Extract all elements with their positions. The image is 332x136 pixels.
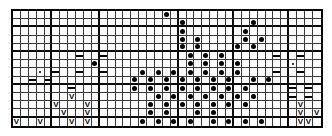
chart-cell-filled-dot[interactable] — [163, 101, 171, 109]
chart-cell-empty[interactable] — [116, 19, 124, 27]
chart-cell-empty[interactable] — [250, 60, 258, 68]
chart-cell-empty[interactable] — [29, 44, 37, 52]
chart-cell-empty[interactable] — [92, 77, 100, 85]
chart-cell-filled-dot[interactable] — [226, 101, 234, 109]
chart-cell-empty[interactable] — [258, 27, 266, 35]
chart-cell-empty[interactable] — [60, 19, 68, 27]
chart-cell-empty[interactable] — [29, 85, 37, 93]
chart-cell-empty[interactable] — [163, 27, 171, 35]
chart-cell-vee-mark[interactable]: V — [84, 109, 92, 117]
chart-cell-empty[interactable] — [68, 11, 76, 19]
chart-cell-filled-dot[interactable] — [92, 60, 100, 68]
chart-cell-empty[interactable] — [45, 52, 53, 60]
chart-cell-empty[interactable] — [202, 44, 210, 52]
chart-cell-empty[interactable] — [242, 44, 250, 52]
chart-cell-empty[interactable] — [305, 77, 313, 85]
chart-cell-empty[interactable] — [234, 36, 242, 44]
chart-cell-empty[interactable] — [116, 11, 124, 19]
chart-cell-empty[interactable] — [218, 85, 226, 93]
chart-cell-vee-mark[interactable]: V — [68, 118, 76, 126]
chart-cell-empty[interactable] — [123, 109, 131, 117]
chart-cell-empty[interactable] — [313, 101, 321, 109]
chart-cell-empty[interactable] — [131, 52, 139, 60]
chart-cell-empty[interactable] — [258, 19, 266, 27]
chart-cell-empty[interactable] — [92, 101, 100, 109]
chart-cell-empty[interactable] — [171, 85, 179, 93]
chart-cell-empty[interactable] — [266, 68, 274, 76]
chart-cell-empty[interactable] — [13, 109, 21, 117]
chart-cell-empty[interactable] — [202, 118, 210, 126]
chart-cell-empty[interactable] — [45, 27, 53, 35]
chart-cell-empty[interactable] — [171, 27, 179, 35]
chart-cell-empty[interactable] — [266, 27, 274, 35]
chart-cell-empty[interactable] — [171, 52, 179, 60]
chart-cell-empty[interactable] — [147, 93, 155, 101]
chart-cell-empty[interactable] — [13, 36, 21, 44]
chart-cell-empty[interactable] — [116, 118, 124, 126]
chart-cell-empty[interactable] — [226, 27, 234, 35]
chart-cell-empty[interactable] — [60, 118, 68, 126]
chart-cell-dash[interactable] — [297, 52, 305, 60]
chart-cell-empty[interactable] — [52, 60, 60, 68]
chart-cell-empty[interactable] — [123, 19, 131, 27]
chart-cell-empty[interactable] — [289, 52, 297, 60]
chart-cell-empty[interactable] — [29, 36, 37, 44]
chart-cell-empty[interactable] — [37, 101, 45, 109]
chart-cell-dash[interactable] — [289, 85, 297, 93]
chart-cell-filled-dot[interactable] — [139, 118, 147, 126]
chart-cell-empty[interactable] — [13, 11, 21, 19]
chart-cell-empty[interactable] — [131, 118, 139, 126]
chart-cell-empty[interactable] — [155, 27, 163, 35]
chart-cell-filled-dot[interactable] — [218, 93, 226, 101]
chart-cell-empty[interactable] — [100, 27, 108, 35]
chart-cell-empty[interactable] — [123, 44, 131, 52]
chart-cell-empty[interactable] — [116, 44, 124, 52]
chart-cell-empty[interactable] — [289, 27, 297, 35]
chart-cell-empty[interactable] — [313, 68, 321, 76]
chart-cell-dash[interactable] — [297, 68, 305, 76]
chart-cell-vee-mark[interactable]: V — [297, 101, 305, 109]
chart-cell-empty[interactable] — [29, 60, 37, 68]
chart-cell-empty[interactable] — [202, 85, 210, 93]
chart-cell-dash[interactable] — [76, 68, 84, 76]
chart-cell-empty[interactable] — [273, 101, 281, 109]
chart-cell-empty[interactable] — [108, 52, 116, 60]
chart-cell-empty[interactable] — [297, 19, 305, 27]
chart-cell-empty[interactable] — [52, 36, 60, 44]
chart-cell-empty[interactable] — [163, 93, 171, 101]
chart-cell-empty[interactable] — [163, 44, 171, 52]
chart-cell-empty[interactable] — [29, 109, 37, 117]
chart-cell-empty[interactable] — [108, 27, 116, 35]
chart-cell-empty[interactable] — [171, 19, 179, 27]
chart-cell-empty[interactable] — [68, 44, 76, 52]
chart-cell-empty[interactable] — [68, 101, 76, 109]
chart-cell-empty[interactable] — [194, 52, 202, 60]
chart-cell-empty[interactable] — [155, 44, 163, 52]
chart-cell-empty[interactable] — [313, 85, 321, 93]
chart-cell-filled-dot[interactable] — [179, 44, 187, 52]
chart-cell-empty[interactable] — [116, 77, 124, 85]
chart-cell-empty[interactable] — [281, 44, 289, 52]
chart-cell-empty[interactable] — [281, 36, 289, 44]
chart-cell-empty[interactable] — [281, 11, 289, 19]
chart-cell-empty[interactable] — [100, 11, 108, 19]
chart-cell-empty[interactable] — [250, 109, 258, 117]
chart-cell-empty[interactable] — [60, 77, 68, 85]
chart-cell-filled-dot[interactable] — [187, 118, 195, 126]
chart-cell-empty[interactable] — [163, 60, 171, 68]
chart-cell-empty[interactable] — [155, 36, 163, 44]
chart-cell-empty[interactable] — [13, 52, 21, 60]
chart-cell-dash[interactable] — [289, 93, 297, 101]
chart-cell-empty[interactable] — [21, 44, 29, 52]
chart-cell-filled-dot[interactable] — [250, 19, 258, 27]
chart-cell-empty[interactable] — [266, 44, 274, 52]
chart-cell-empty[interactable] — [45, 101, 53, 109]
chart-cell-empty[interactable] — [29, 118, 37, 126]
chart-cell-filled-dot[interactable] — [242, 118, 250, 126]
chart-cell-empty[interactable] — [68, 52, 76, 60]
chart-cell-empty[interactable] — [281, 85, 289, 93]
chart-cell-empty[interactable] — [171, 77, 179, 85]
chart-cell-empty[interactable] — [155, 101, 163, 109]
chart-cell-filled-dot[interactable] — [202, 93, 210, 101]
chart-cell-empty[interactable] — [202, 27, 210, 35]
